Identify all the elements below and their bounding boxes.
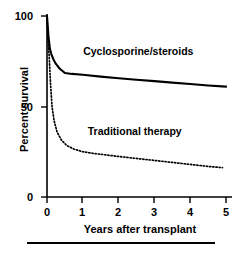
y-tick-label-100: 100 — [15, 11, 33, 22]
y-axis-ticks — [41, 16, 47, 197]
series-annotation-traditional-therapy: Traditional therapy — [88, 126, 182, 137]
x-tick-label-1: 1 — [79, 207, 85, 218]
x-axis-title: Years after transplant — [84, 224, 197, 235]
x-tick-label-3: 3 — [151, 207, 157, 218]
series-annotation-cyclosporine-steroids: Cyclosporine/steroids — [83, 46, 193, 57]
x-axis-ticks — [47, 197, 226, 203]
survival-chart-figure: 0 50 100 0 1 2 3 4 5 Percent survival Ye… — [0, 0, 248, 256]
y-axis-title: Percent survival — [19, 67, 30, 152]
x-tick-label-5: 5 — [223, 207, 229, 218]
y-tick-label-0: 0 — [27, 192, 33, 203]
x-tick-label-0: 0 — [44, 207, 50, 218]
x-tick-label-2: 2 — [115, 207, 121, 218]
x-tick-label-4: 4 — [187, 207, 193, 218]
series-line-traditional-therapy — [47, 16, 222, 168]
